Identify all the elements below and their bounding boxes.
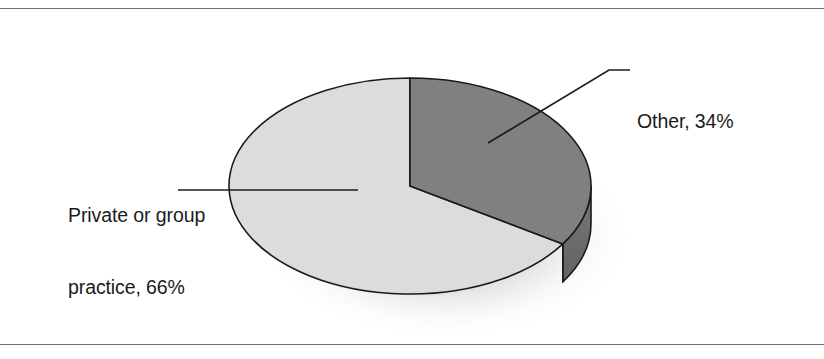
- slice-label-other-line-1: Other, 34%: [637, 109, 734, 133]
- slice-label-private-line-1: Private or group: [68, 203, 205, 227]
- slice-label-private-or-group-practice: Private or group practice, 66%: [68, 155, 205, 347]
- slice-label-other: Other, 34%: [637, 61, 734, 181]
- slice-label-private-line-2: practice, 66%: [68, 275, 205, 299]
- pie-chart-figure: Private or group practice, 66% Other, 34…: [0, 0, 824, 359]
